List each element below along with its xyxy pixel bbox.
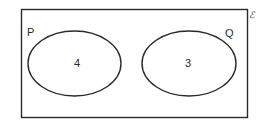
- universal-set-symbol: ℰ: [249, 10, 256, 20]
- set-q-value: 3: [185, 57, 191, 69]
- set-p-label: P: [27, 26, 34, 38]
- set-q-label: Q: [225, 27, 234, 39]
- universal-set-rectangle: [22, 10, 248, 118]
- venn-diagram: ℰ P 4 Q 3: [0, 0, 266, 126]
- set-p-value: 4: [74, 57, 80, 69]
